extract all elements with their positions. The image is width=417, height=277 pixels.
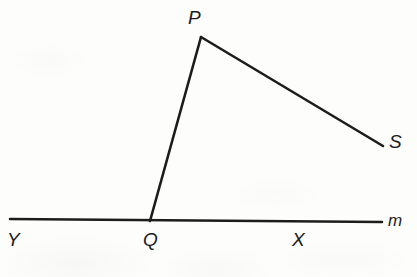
segment-qp xyxy=(150,37,201,221)
segment-ps xyxy=(201,37,383,146)
label-point-x: X xyxy=(292,230,305,249)
line-m xyxy=(10,219,382,222)
geometry-canvas xyxy=(0,0,417,277)
label-line-m: m xyxy=(388,212,402,229)
label-point-y: Y xyxy=(7,230,20,249)
label-point-s: S xyxy=(389,132,402,151)
label-point-p: P xyxy=(188,8,201,27)
geometry-figure: P Q S X Y m xyxy=(0,0,417,277)
label-point-q: Q xyxy=(143,230,158,249)
